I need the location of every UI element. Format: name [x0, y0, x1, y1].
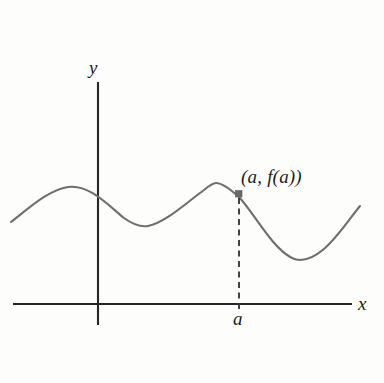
y-axis-label: y — [89, 58, 97, 77]
point-marker — [236, 191, 243, 198]
graph-figure: y x a (a, f(a)) — [0, 0, 384, 383]
x-axis-label: x — [358, 294, 366, 313]
point-coordinate-label: (a, f(a)) — [241, 167, 302, 186]
function-curve — [11, 183, 360, 260]
graph-canvas — [0, 0, 384, 383]
x-tick-label-a: a — [233, 309, 243, 328]
